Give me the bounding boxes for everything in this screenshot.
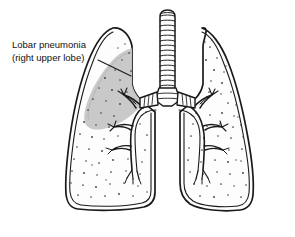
illustration-canvas: Lobar pneumonia (right upper lobe): [0, 0, 295, 237]
annotation-line-2: (right upper lobe): [12, 52, 84, 63]
carina: [155, 88, 180, 106]
lung-anatomy-diagram: Lobar pneumonia (right upper lobe): [0, 0, 295, 237]
annotation-line-1: Lobar pneumonia: [12, 39, 87, 50]
trachea-group: [160, 10, 175, 90]
